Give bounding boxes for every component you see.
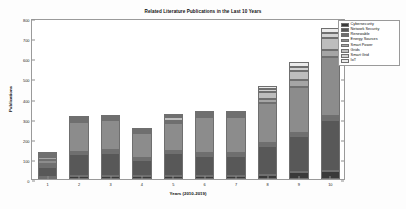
bar-segment[interactable] xyxy=(195,117,214,153)
bar-stack[interactable] xyxy=(258,86,277,179)
y-axis-tick-mark xyxy=(341,140,344,141)
bar-segment[interactable] xyxy=(38,164,57,166)
y-axis-tick-mark xyxy=(341,100,344,101)
bar-stack[interactable] xyxy=(101,116,120,179)
bar-segment[interactable] xyxy=(164,151,183,153)
x-axis-tick-mark xyxy=(79,176,80,179)
legend-item-label: Smart Power xyxy=(351,44,373,48)
x-axis-tick-mark xyxy=(110,176,111,179)
bar-segment[interactable] xyxy=(289,133,308,136)
bar-segment[interactable] xyxy=(289,87,308,132)
bar-segment[interactable] xyxy=(195,115,214,117)
bar-segment[interactable] xyxy=(289,136,308,172)
bar-stack[interactable] xyxy=(164,115,183,179)
bar-segment[interactable] xyxy=(38,157,57,159)
bar-segment[interactable] xyxy=(289,80,308,87)
bar-segment[interactable] xyxy=(164,117,183,121)
plot-area: 010020030040050060070080012345678910 xyxy=(31,19,345,180)
x-axis-tick-label: 3 xyxy=(109,182,111,187)
bar-stack[interactable] xyxy=(132,129,151,179)
bar-segment[interactable] xyxy=(289,71,308,80)
bar-stack[interactable] xyxy=(38,153,57,179)
x-axis-tick-mark xyxy=(204,176,205,179)
x-axis-tick-mark xyxy=(298,176,299,179)
x-axis-tick-mark xyxy=(267,176,268,179)
x-axis-tick-mark xyxy=(330,176,331,179)
bar-stack[interactable] xyxy=(69,117,88,179)
bar-segment[interactable] xyxy=(101,120,120,150)
legend-swatch xyxy=(341,23,350,27)
bar-segment[interactable] xyxy=(101,150,120,152)
x-axis-tick-label: 6 xyxy=(204,182,206,187)
y-axis-tick-mark xyxy=(32,60,35,61)
bar-segment[interactable] xyxy=(132,158,151,160)
x-axis-tick-mark xyxy=(236,176,237,179)
bar-segment[interactable] xyxy=(321,116,340,120)
bar-segment[interactable] xyxy=(38,160,57,164)
bar-segment[interactable] xyxy=(226,115,245,117)
bar-segment[interactable] xyxy=(101,115,120,117)
y-axis-tick-mark xyxy=(32,40,35,41)
legend-swatch xyxy=(341,28,350,32)
y-axis-tick-mark xyxy=(32,80,35,81)
bar-segment[interactable] xyxy=(69,152,88,154)
bar-stack[interactable] xyxy=(226,112,245,179)
bar-segment[interactable] xyxy=(101,153,120,176)
bar-segment[interactable] xyxy=(258,89,277,91)
bar-segment[interactable] xyxy=(164,121,183,123)
bar-segment[interactable] xyxy=(195,153,214,155)
bar-segment[interactable] xyxy=(226,117,245,153)
bar-segment[interactable] xyxy=(226,156,245,176)
bar-segment[interactable] xyxy=(289,67,308,71)
bar-segment[interactable] xyxy=(195,111,214,113)
x-axis-tick-label: 7 xyxy=(235,182,237,187)
bar-segment[interactable] xyxy=(226,111,245,113)
bar-segment[interactable] xyxy=(132,160,151,177)
y-axis-tick-label: 800 xyxy=(23,18,30,23)
bar-segment[interactable] xyxy=(69,122,88,152)
bar-segment[interactable] xyxy=(164,123,183,151)
bar-segment[interactable] xyxy=(38,155,57,157)
x-axis-tick-label: 5 xyxy=(172,182,174,187)
bar-segment[interactable] xyxy=(38,152,57,154)
bar-segment[interactable] xyxy=(164,114,183,116)
bar-segment[interactable] xyxy=(69,116,88,118)
y-axis-tick-mark xyxy=(32,120,35,121)
y-axis-tick-label: 200 xyxy=(23,138,30,143)
bar-segment[interactable] xyxy=(132,133,151,158)
bar-segment[interactable] xyxy=(132,128,151,130)
bar-segment[interactable] xyxy=(38,167,57,177)
bar-segment[interactable] xyxy=(164,153,183,176)
bar-segment[interactable] xyxy=(226,153,245,155)
y-axis-tick-mark xyxy=(32,181,35,182)
x-axis-tick-label: 10 xyxy=(328,182,332,187)
bar-stack[interactable] xyxy=(195,112,214,179)
legend-swatch xyxy=(341,44,350,48)
plot-inner: 010020030040050060070080012345678910 xyxy=(32,20,344,179)
bar-segment[interactable] xyxy=(258,103,277,143)
bar-segment[interactable] xyxy=(258,92,277,99)
bar-segment[interactable] xyxy=(195,156,214,176)
bar-segment[interactable] xyxy=(321,57,340,115)
bar-segment[interactable] xyxy=(258,86,277,89)
figure-canvas: Related Literature Publications in the L… xyxy=(0,0,406,209)
x-axis-tick-label: 9 xyxy=(298,182,300,187)
y-axis-tick-label: 400 xyxy=(23,98,30,103)
bar-segment[interactable] xyxy=(258,99,277,103)
legend-swatch xyxy=(341,33,350,37)
bar-segment[interactable] xyxy=(258,143,277,145)
bar-segment[interactable] xyxy=(258,146,277,175)
y-axis-tick-mark xyxy=(341,181,344,182)
bar-stack[interactable] xyxy=(289,62,308,179)
y-axis-tick-label: 100 xyxy=(23,158,30,163)
bar-segment[interactable] xyxy=(289,62,308,67)
legend-item[interactable]: IoT xyxy=(341,59,398,64)
bar-segment[interactable] xyxy=(321,120,340,171)
bar-segment[interactable] xyxy=(69,154,88,176)
y-axis-tick-label: 0 xyxy=(27,179,29,184)
x-axis-label: Years (2010-2019) xyxy=(31,191,345,196)
y-axis-tick-mark xyxy=(341,120,344,121)
legend-swatch xyxy=(341,54,350,58)
x-axis-tick-label: 1 xyxy=(47,182,49,187)
y-axis-tick-mark xyxy=(32,20,35,21)
